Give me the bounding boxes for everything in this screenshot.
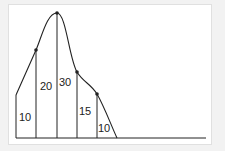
- curve-diagram: 10 20 30 15 10: [0, 0, 225, 151]
- curve-point: [95, 92, 99, 96]
- strip-label-2: 20: [40, 80, 52, 92]
- curve-point: [34, 48, 38, 52]
- strip-label-5: 10: [98, 122, 110, 134]
- curve-point: [55, 11, 59, 15]
- strip-label-4: 15: [79, 105, 91, 117]
- strip-label-3: 30: [59, 76, 71, 88]
- curve-point: [75, 70, 79, 74]
- strip-label-1: 10: [19, 111, 31, 123]
